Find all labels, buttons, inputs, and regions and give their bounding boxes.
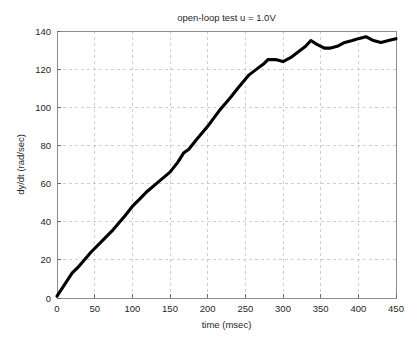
x-tick-labels: 050100150200250300350400450 — [54, 303, 404, 314]
y-tick-label: 60 — [40, 178, 51, 189]
x-tick-label: 300 — [275, 303, 291, 314]
x-tick-label: 400 — [350, 303, 366, 314]
chart-title: open-loop test u = 1.0V — [177, 12, 276, 23]
x-axis-label: time (msec) — [202, 319, 252, 330]
x-tick-label: 50 — [89, 303, 100, 314]
plot-frame — [57, 31, 396, 298]
x-tick-label: 250 — [237, 303, 253, 314]
y-tick-label: 80 — [40, 140, 51, 151]
y-tick-label: 20 — [40, 254, 51, 265]
tick-marks-layer — [57, 31, 396, 298]
x-tick-label: 100 — [124, 303, 140, 314]
y-tick-label: 120 — [35, 64, 51, 75]
x-tick-label: 0 — [54, 303, 59, 314]
chart-plot[interactable]: 050100150200250300350400450 020406080100… — [0, 0, 419, 344]
y-tick-labels: 020406080100120140 — [35, 26, 51, 304]
x-tick-label: 450 — [388, 303, 404, 314]
x-tick-label: 350 — [313, 303, 329, 314]
y-tick-label: 0 — [46, 293, 51, 304]
grid-layer — [57, 31, 396, 298]
x-tick-label: 200 — [200, 303, 216, 314]
y-tick-label: 140 — [35, 26, 51, 37]
y-tick-label: 40 — [40, 216, 51, 227]
x-tick-label: 150 — [162, 303, 178, 314]
y-tick-label: 100 — [35, 102, 51, 113]
figure-canvas: 050100150200250300350400450 020406080100… — [0, 0, 419, 344]
y-axis-label: dy/dt (rad/sec) — [15, 134, 26, 195]
data-series-line — [57, 37, 396, 296]
